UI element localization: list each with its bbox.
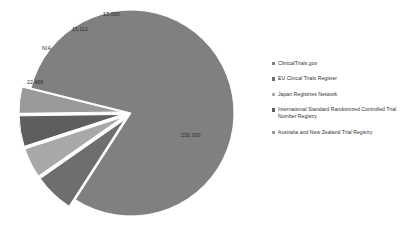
legend-item-japan[interactable]: Japan Registries Network [272, 91, 416, 98]
legend-item-label: International Standard Randomized Contro… [278, 106, 416, 120]
slice-label-isrctn: 15,112 [72, 26, 88, 32]
legend-swatch-icon [272, 62, 275, 65]
legend-swatch-icon [272, 131, 275, 134]
pie-chart-figure: 230,300 22,466 N/A 15,112 13,000 Clinica… [0, 0, 416, 228]
pie-plot-area: 230,300 22,466 N/A 15,112 13,000 [0, 0, 266, 228]
legend-item-label: EU Clincal Trials Register [278, 75, 337, 82]
legend-item-label: Japan Registries Network [278, 91, 337, 98]
legend-swatch-icon [272, 77, 275, 80]
legend-swatch-icon [272, 108, 275, 111]
pie-slices-graphic [0, 0, 266, 228]
legend-item-clinicaltrials[interactable]: ClinicalTrials.gov [272, 60, 416, 67]
legend-item-isrctn[interactable]: International Standard Randomized Contro… [272, 106, 416, 120]
legend-item-label: ClinicalTrials.gov [278, 60, 317, 67]
legend-item-eu-register[interactable]: EU Clincal Trials Register [272, 75, 416, 82]
slice-label-japan: N/A [42, 45, 51, 51]
legend-item-anzctr[interactable]: Australia and New Zealand Trial Registry [272, 129, 416, 136]
slices-group [19, 10, 234, 216]
legend-item-label: Australia and New Zealand Trial Registry [278, 129, 372, 136]
slice-label-clinicaltrials: 230,300 [181, 132, 200, 138]
slice-label-anzctr: 13,000 [103, 11, 119, 17]
slice-label-eu-register: 22,466 [27, 79, 43, 85]
legend-swatch-icon [272, 93, 275, 96]
chart-legend: ClinicalTrials.gov EU Clincal Trials Reg… [272, 60, 416, 144]
